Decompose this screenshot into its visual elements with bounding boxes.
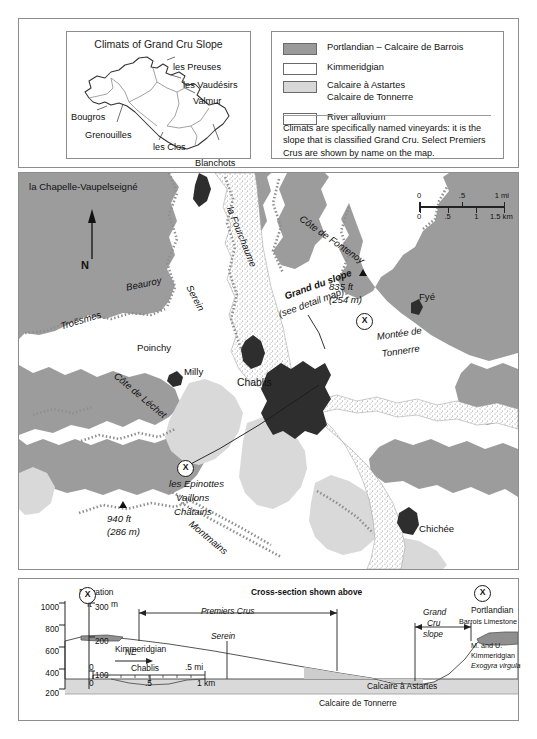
inset-climat-les-clos: les Clos bbox=[153, 142, 186, 152]
xs-ft-tick-800: 800 bbox=[27, 625, 59, 634]
scale-km-tick-1: .5 bbox=[444, 212, 450, 221]
xs-ft-tick-200: 200 bbox=[27, 689, 59, 698]
legend-row-portlandian: Portlandian – Calcaire de Barrois bbox=[283, 42, 463, 55]
xs-bracket-slope: slope bbox=[423, 629, 443, 639]
scale-mi-tick-1: .5 bbox=[459, 191, 465, 200]
top-panel: Climats of Grand Cru Slope bbox=[18, 18, 519, 168]
xs-scale-mi-1: .5 mi bbox=[185, 662, 203, 672]
map-label-les-epinottes: les Epinottes bbox=[169, 478, 224, 489]
legend-swatch-kimmeridgian bbox=[283, 63, 317, 75]
scale-mi-tick-2: 1 mi bbox=[495, 191, 509, 200]
xs-bracket-grand: Grand bbox=[423, 607, 446, 617]
main-map: N 0.51 mi 0.511.5 km X X Grand du slope … bbox=[18, 172, 519, 570]
xs-stratum-portlandian: Portlandian bbox=[471, 605, 513, 615]
xs-stratum-tonnerre: Calcaire de Tonnerre bbox=[319, 698, 397, 708]
xs-stratum-astartes: Calcaire à Astartes bbox=[367, 681, 437, 691]
xs-stratum-barrois: Barrois Limestone bbox=[459, 617, 517, 626]
summit-elevation-m-1: (286 m) bbox=[107, 526, 140, 537]
xs-ft-tick-1000: 1000 bbox=[27, 603, 59, 612]
scale-km-tick-2: 1 bbox=[474, 212, 478, 221]
summit-triangle-835 bbox=[359, 269, 367, 276]
xs-marker-ne[interactable]: X bbox=[474, 585, 491, 602]
legend-row-astartes: Calcaire à AstartesCalcaire de Tonnerre bbox=[283, 80, 413, 103]
legend-label-portlandian: Portlandian – Calcaire de Barrois bbox=[327, 42, 463, 54]
map-label-poinchy: Poinchy bbox=[137, 342, 171, 353]
xs-stratum-mu-line1: M. and U. bbox=[471, 641, 502, 650]
xs-stratum-kimmeridgian: Kimmeridgian bbox=[115, 644, 166, 654]
xs-scale-km-1: .5 bbox=[145, 678, 152, 688]
map-legend: Portlandian – Calcaire de BarroisKimmeri… bbox=[271, 31, 504, 159]
map-label-vaillons: Vaillons bbox=[176, 492, 209, 503]
legend-swatch-astartes bbox=[283, 81, 317, 93]
xs-scale-km-2: 1 km bbox=[197, 678, 215, 688]
xs-m-tick-300: 300 bbox=[95, 603, 117, 612]
legend-note: Climats are specifically named vineyards… bbox=[283, 122, 495, 159]
xs-scale-km-0: 0 bbox=[89, 678, 94, 688]
legend-label-kimmeridgian: Kimmeridgian bbox=[327, 62, 384, 74]
xs-scale-mi-0: 0 bbox=[89, 662, 94, 672]
north-arrow-icon bbox=[85, 209, 99, 261]
scale-mi-tick-0: 0 bbox=[417, 191, 421, 200]
map-label-la-chapelle-vaupelseign: la Chapelle-Vaupelseigné bbox=[29, 181, 138, 192]
inset-climat-bougros: Bougros bbox=[71, 112, 105, 122]
detail-map-inset: Climats of Grand Cru Slope bbox=[66, 31, 251, 159]
legend-divider bbox=[283, 115, 491, 116]
xs-ft-tick-600: 600 bbox=[27, 647, 59, 656]
summit-triangle-940 bbox=[119, 501, 127, 508]
cross-section-marker-sw[interactable]: X bbox=[177, 460, 194, 477]
map-label-milly: Milly bbox=[184, 366, 203, 377]
xs-marker-sw[interactable]: X bbox=[79, 587, 96, 604]
scale-km-tick-3: 1.5 km bbox=[490, 212, 513, 221]
map-scale-bar: 0.51 mi 0.511.5 km bbox=[419, 191, 505, 223]
scale-miles-labels: 0.51 mi bbox=[419, 191, 505, 202]
scale-km-tick-0: 0 bbox=[417, 212, 421, 221]
map-label-fy: Fyé bbox=[419, 291, 435, 302]
map-label-chich-e: Chichée bbox=[419, 523, 454, 534]
inset-climat-les-preuses: les Preuses bbox=[173, 62, 221, 72]
xs-m-tick-100: 100 bbox=[95, 671, 117, 680]
scale-km-labels: 0.511.5 km bbox=[419, 212, 505, 223]
xs-marker-chablis: Chablis bbox=[131, 663, 159, 673]
xs-title: Cross-section shown above bbox=[251, 587, 362, 597]
inset-climat-grenouilles: Grenouilles bbox=[85, 130, 131, 140]
map-label-chablis: Chablis bbox=[237, 377, 272, 388]
xs-marker-serein: Serein bbox=[211, 631, 235, 641]
inset-climat-valmur: Valmur bbox=[193, 96, 221, 106]
summit-elevation-m-0: (254 m) bbox=[329, 294, 362, 305]
summit-elevation-ft-0: 835 ft bbox=[329, 281, 353, 292]
legend-swatch-portlandian bbox=[283, 43, 317, 55]
xs-direction-ne: NE bbox=[125, 647, 137, 657]
xs-ft-tick-400: 400 bbox=[27, 669, 59, 678]
xs-m-tick-200: 200 bbox=[95, 637, 117, 646]
xs-stratum-mu-line2: Kimmeridgian bbox=[471, 651, 515, 660]
xs-stratum-exogyra: Exogyra virgula bbox=[471, 661, 521, 670]
legend-row-kimmeridgian: Kimmeridgian bbox=[283, 62, 384, 75]
legend-label-astartes: Calcaire à AstartesCalcaire de Tonnerre bbox=[327, 80, 413, 103]
cross-section-panel: Cross-section shown aboveElevationftm100… bbox=[18, 578, 519, 721]
map-label-ch-tains: Châtains bbox=[174, 506, 212, 517]
north-label: N bbox=[81, 259, 89, 271]
summit-elevation-ft-1: 940 ft bbox=[107, 513, 131, 524]
cross-section-marker-ne[interactable]: X bbox=[356, 313, 373, 330]
xs-bracket-premiers-crus: Premiers Crus bbox=[201, 606, 255, 616]
inset-climat-blanchots: Blanchots bbox=[195, 158, 235, 168]
xs-bracket-cru: Cru bbox=[427, 618, 441, 628]
inset-climat-les-vaud-sirs: les Vaudésirs bbox=[183, 80, 237, 90]
